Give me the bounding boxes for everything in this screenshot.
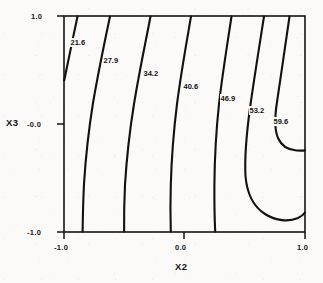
y-axis-title: X3 <box>6 117 19 128</box>
y-tick-label-bottom: -1.0 <box>27 228 41 237</box>
contour-label-40-6: 40.6 <box>183 82 199 91</box>
x-axis-ticks <box>64 232 305 239</box>
contour-label-46-9: 46.9 <box>220 94 236 103</box>
contour-label-34-2: 34.2 <box>143 69 159 78</box>
x-tick-label-left: -1.0 <box>54 243 68 252</box>
contour-label-59-6: 59.6 <box>273 117 289 126</box>
contour-plot-figure: 1.0 -0.0 -1.0 X3 -1.0 0.0 1.0 X2 21.6 27… <box>0 0 323 283</box>
x-tick-label-right: 1.0 <box>297 243 308 252</box>
x-axis-title: X2 <box>175 261 188 272</box>
x-tick-label-middle: 0.0 <box>175 243 186 252</box>
y-axis-ticks <box>57 16 64 232</box>
contour-label-53-2: 53.2 <box>249 106 265 115</box>
contour-plot-canvas <box>0 0 323 283</box>
contour-label-21-6: 21.6 <box>70 38 86 47</box>
y-tick-label-top: 1.0 <box>31 12 42 21</box>
contour-label-27-9: 27.9 <box>103 56 119 65</box>
y-tick-label-middle: -0.0 <box>27 120 41 129</box>
